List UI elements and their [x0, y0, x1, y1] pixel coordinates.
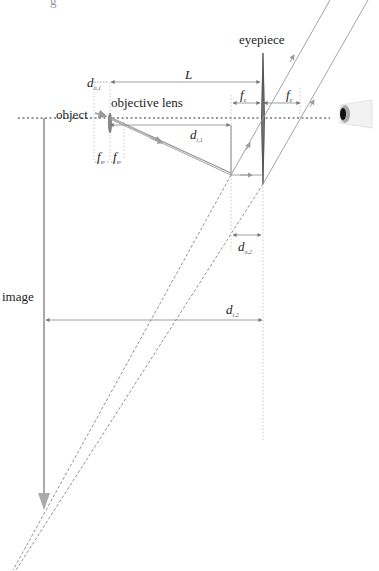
eye-icon: [340, 100, 372, 128]
virtual-ray-extensions: [13, 175, 263, 570]
eyepiece-label: eyepiece: [239, 33, 284, 46]
symbol-L: L: [185, 68, 192, 81]
final-image-arrowhead: [38, 493, 50, 510]
symbol-f-e-left: fe: [240, 88, 246, 103]
object-label: object: [56, 108, 88, 121]
symbol-f-o-left: fo: [97, 150, 104, 165]
object-arrow: [95, 113, 106, 116]
symbol-d-i2: di,2: [226, 303, 239, 318]
output-rays: [231, 0, 368, 184]
symbol-d-o2: do,2: [238, 240, 252, 255]
symbol-d-o1: do,1: [87, 76, 101, 91]
image-label: image: [2, 290, 34, 303]
symbol-d-i1: di,1: [190, 128, 203, 143]
top-fragment-text: g: [50, 0, 57, 7]
ray-diagram: [0, 0, 379, 571]
symbol-f-o-right: fo: [113, 150, 120, 165]
symbol-f-e-right: fe: [286, 88, 292, 103]
objective-lens-label: objective lens: [111, 96, 183, 109]
